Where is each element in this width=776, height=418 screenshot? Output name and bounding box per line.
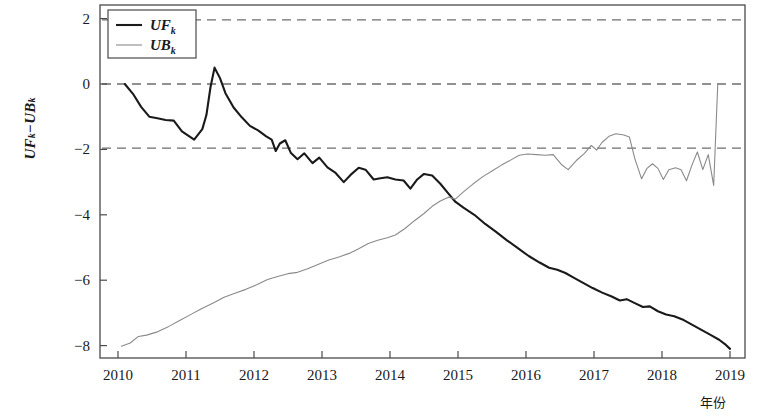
x-tick-label: 2011	[171, 367, 200, 383]
x-tick-label: 2014	[375, 367, 406, 383]
y-tick-label: −4	[74, 207, 90, 223]
axis-ticks: 20−2−4−6−8201020112012201320142015201620…	[74, 11, 745, 383]
y-tick-label: −2	[74, 141, 90, 157]
chart-legend[interactable]: UFkUBk	[108, 10, 196, 58]
y-tick-label: −6	[74, 272, 90, 288]
y-tick-label: −8	[74, 338, 90, 354]
plot-frame	[100, 5, 745, 358]
x-tick-label: 2016	[511, 367, 542, 383]
series-line-ub-k	[121, 84, 717, 346]
x-tick-label: 2015	[443, 367, 473, 383]
reference-lines	[102, 20, 743, 148]
x-tick-label: 2018	[647, 367, 677, 383]
x-tick-label: 2010	[103, 367, 133, 383]
y-tick-label: 0	[83, 76, 91, 92]
chart-canvas: 20−2−4−6−8201020112012201320142015201620…	[0, 0, 776, 418]
chart-figure: UFk−UBk 年份 20−2−4−6−82010201120122013201…	[0, 0, 776, 418]
y-tick-label: 2	[83, 11, 91, 27]
series-line-uf-k	[125, 68, 730, 349]
x-tick-label: 2012	[239, 367, 269, 383]
x-tick-label: 2019	[715, 367, 745, 383]
x-tick-label: 2017	[579, 367, 610, 383]
x-tick-label: 2013	[307, 367, 337, 383]
data-series	[121, 68, 730, 349]
